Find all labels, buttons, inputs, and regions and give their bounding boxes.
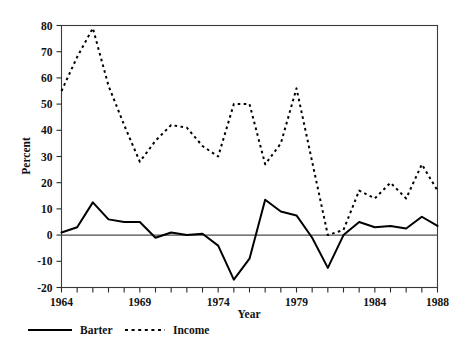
y-tick-label-70: 70	[41, 46, 53, 58]
x-tick-label-1974: 1974	[207, 296, 230, 308]
x-axis-ticks	[62, 288, 438, 293]
x-axis-title: Year	[238, 308, 261, 320]
y-axis-title: Percent	[20, 137, 32, 175]
y-tick-label--10: -10	[37, 255, 53, 267]
y-tick-label--20: -20	[37, 282, 53, 294]
x-tick-label-1984: 1984	[363, 296, 386, 308]
series-line-barter	[62, 200, 438, 280]
y-tick-label-20: 20	[41, 177, 53, 189]
y-tick-label-30: 30	[41, 151, 53, 163]
y-tick-label-40: 40	[41, 124, 53, 136]
legend: Barter Income	[28, 324, 209, 336]
x-tick-label-1969: 1969	[128, 296, 151, 308]
line-chart: -20-1001020304050607080 1964196919741979…	[0, 0, 468, 345]
x-tick-label-1979: 1979	[285, 296, 308, 308]
x-tick-label-1988: 1988	[426, 296, 449, 308]
y-axis-ticks	[57, 26, 62, 288]
x-axis-tick-labels: 196419691974197919841988	[50, 296, 449, 308]
y-tick-label-80: 80	[41, 20, 53, 32]
plot-frame	[62, 26, 438, 288]
y-tick-label-50: 50	[41, 98, 53, 110]
chart-figure: -20-1001020304050607080 1964196919741979…	[0, 0, 468, 345]
data-series-group	[62, 28, 438, 280]
y-tick-label-0: 0	[47, 229, 53, 241]
y-tick-label-10: 10	[41, 203, 53, 215]
legend-label-barter: Barter	[80, 324, 113, 336]
series-line-income	[62, 28, 438, 235]
y-tick-label-60: 60	[41, 72, 53, 84]
y-axis-tick-labels: -20-1001020304050607080	[37, 20, 53, 294]
x-tick-label-1964: 1964	[50, 296, 73, 308]
legend-label-income: Income	[173, 324, 209, 336]
